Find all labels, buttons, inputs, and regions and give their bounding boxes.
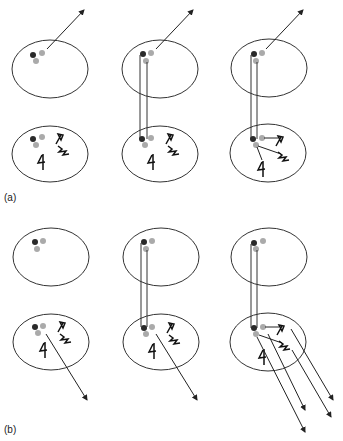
upper-ellipse (13, 228, 89, 286)
light-dot (142, 142, 148, 148)
dark-dot (251, 325, 257, 331)
emission-arrow (47, 10, 84, 49)
light-dot (259, 50, 265, 56)
emission-arrow (266, 10, 303, 49)
emission-arrow (156, 10, 193, 49)
light-dot (253, 331, 259, 337)
upper-ellipse (231, 39, 307, 97)
dark-dot (250, 136, 256, 142)
panel-a-column-1 (12, 10, 88, 182)
light-dot (39, 134, 45, 140)
crossed-glyph (40, 342, 47, 358)
interaction-line (257, 147, 262, 160)
light-dot (149, 238, 155, 244)
panel-label-b: (b) (4, 424, 16, 435)
crossed-glyph (148, 154, 155, 170)
dark-dot (141, 325, 147, 331)
panel-label-a: (a) (4, 192, 16, 203)
light-dot (40, 238, 46, 244)
diagram-canvas (0, 0, 343, 441)
upper-ellipse (12, 40, 88, 98)
light-dot (35, 330, 41, 336)
lower-ellipse (230, 124, 306, 182)
lower-ellipse (230, 313, 306, 371)
crossed-glyph (149, 343, 156, 359)
dark-dot (30, 52, 36, 58)
lower-ellipse (12, 126, 88, 182)
emission-arrow (46, 334, 87, 400)
hollow-arrow-glyph (58, 322, 65, 332)
zigzag-glyph (169, 335, 180, 344)
panel-a-column-3 (230, 10, 307, 182)
upper-ellipse (123, 228, 199, 286)
light-dot (253, 142, 259, 148)
light-dot (143, 246, 149, 252)
hollow-arrow-glyph (166, 134, 173, 144)
upper-ellipse (231, 228, 307, 286)
light-dot (148, 50, 154, 56)
emission-arrow (291, 329, 333, 400)
light-dot (33, 142, 39, 148)
dark-dot (30, 136, 36, 142)
panel-a-column-2 (122, 10, 198, 182)
light-dot (143, 58, 149, 64)
zigzag-glyph (58, 146, 69, 155)
light-dot (149, 324, 155, 330)
panel-b (13, 228, 333, 432)
light-dot (33, 58, 39, 64)
light-dot (39, 50, 45, 56)
light-dot (40, 323, 46, 329)
emission-arrow (292, 350, 331, 417)
crossed-glyph (258, 161, 265, 177)
panel-b-column-1 (13, 228, 89, 400)
dark-dot (251, 51, 257, 57)
light-dot (148, 135, 154, 141)
hollow-arrow-glyph (167, 323, 174, 333)
crossed-glyph (259, 349, 266, 365)
zigzag-glyph (60, 334, 71, 343)
crossed-glyph (38, 154, 45, 170)
light-dot (253, 58, 259, 64)
dark-dot (32, 239, 38, 245)
dark-dot (140, 51, 146, 57)
dark-dot (139, 136, 145, 142)
zigzag-glyph (168, 146, 179, 155)
panel-a (12, 10, 307, 182)
light-dot (253, 246, 259, 252)
upper-ellipse (122, 40, 198, 98)
interaction-line (258, 146, 281, 154)
zigzag-glyph (278, 152, 289, 161)
hollow-arrow-glyph (56, 134, 63, 144)
lower-ellipse (122, 126, 198, 182)
dark-dot (141, 239, 147, 245)
light-dot (260, 238, 266, 244)
dark-dot (251, 240, 257, 246)
emission-arrow (257, 337, 305, 432)
light-dot (34, 246, 40, 252)
dark-dot (32, 324, 38, 330)
panel-b-column-3 (230, 228, 333, 432)
light-dot (143, 331, 149, 337)
panel-b-column-2 (123, 228, 199, 400)
zigzag-glyph (279, 341, 290, 350)
